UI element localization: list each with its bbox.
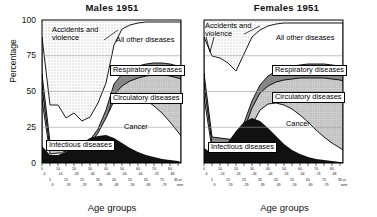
chart-panel-males: Males 1951 Percentage 100 75 50 25 0 [0, 0, 188, 217]
x-tick: 50 [282, 167, 286, 171]
x-tick: -34 [90, 172, 95, 176]
band-label-respiratory-males: Respiratory diseases [110, 65, 185, 76]
x-tick: -4 [205, 172, 208, 176]
x-tick: -4 [43, 172, 46, 176]
x-tick: -79 [162, 183, 167, 187]
x-tick: -64 [138, 172, 143, 176]
band-label-all-other-males: All other diseases [116, 36, 174, 45]
x-tick: 35 [258, 178, 262, 182]
x-tick: over [177, 183, 184, 187]
band-label-cancer-males: Cancer [124, 123, 148, 132]
x-tick: 20 [234, 167, 238, 171]
x-tick: 5 [211, 178, 213, 182]
x-tick: 0 [41, 167, 43, 171]
x-tick: 45 [112, 178, 116, 182]
x-tick: 75 [160, 178, 164, 182]
x-tick: 85 or [338, 178, 346, 182]
accidents-line-2: violence [52, 34, 98, 42]
figure-causes-of-death: Males 1951 Percentage 100 75 50 25 0 [0, 0, 377, 217]
x-tick: 55 [128, 178, 132, 182]
x-tick: 5 [49, 178, 51, 182]
x-tick: 70 [314, 167, 318, 171]
band-label-cancer-females: Cancer [286, 120, 310, 129]
x-tick: 50 [120, 167, 124, 171]
band-label-circulatory-males: Circulatory diseases [110, 93, 183, 104]
x-tick: 35 [96, 178, 100, 182]
x-tick: 15 [226, 178, 230, 182]
x-tick: -34 [252, 172, 257, 176]
accidents-line-2: violence [205, 30, 251, 38]
x-tick: 25 [242, 178, 246, 182]
x-tick: -24 [236, 172, 241, 176]
x-tick: -44 [106, 172, 111, 176]
x-tick: -64 [300, 172, 305, 176]
x-tick: -49 [114, 183, 119, 187]
x-axis-label-females: Age groups [188, 202, 377, 213]
x-tick: -74 [316, 172, 321, 176]
x-tick: -14 [220, 172, 225, 176]
x-tick: -14 [58, 172, 63, 176]
x-tick: 65 [306, 178, 310, 182]
x-tick: -44 [268, 172, 273, 176]
x-tick: 30 [88, 167, 92, 171]
band-label-accidents-males: Accidents and violence [52, 26, 98, 43]
x-tick: -9 [213, 183, 216, 187]
x-tick: over [341, 183, 348, 187]
x-tick: 85 or [174, 178, 182, 182]
x-tick: -84 [170, 172, 175, 176]
x-tick: 65 [144, 178, 148, 182]
x-tick: 80 [168, 167, 172, 171]
x-tick: 30 [250, 167, 254, 171]
x-tick: -19 [66, 183, 71, 187]
x-tick: -69 [308, 183, 313, 187]
band-label-infectious-males: Infectious diseases [46, 140, 115, 151]
x-tick: -79 [324, 183, 329, 187]
x-tick: 0 [203, 167, 205, 171]
x-tick: 40 [104, 167, 108, 171]
x-tick: 55 [290, 178, 294, 182]
band-label-circulatory-females: Circulatory diseases [272, 92, 345, 103]
x-tick: -54 [284, 172, 289, 176]
x-tick: -49 [276, 183, 281, 187]
x-tick: 75 [322, 178, 326, 182]
x-tick: -54 [122, 172, 127, 176]
x-tick: 60 [136, 167, 140, 171]
x-tick: 10 [218, 167, 222, 171]
x-tick: -74 [154, 172, 159, 176]
x-tick: 80 [330, 167, 334, 171]
x-tick: 45 [274, 178, 278, 182]
x-tick: -59 [292, 183, 297, 187]
x-tick: -19 [228, 183, 233, 187]
x-tick: -59 [130, 183, 135, 187]
x-tick: 40 [266, 167, 270, 171]
x-tick: -39 [98, 183, 103, 187]
x-tick: 20 [72, 167, 76, 171]
band-label-respiratory-females: Respiratory diseases [272, 65, 347, 76]
x-tick: 10 [56, 167, 60, 171]
x-tick: -9 [51, 183, 54, 187]
chart-panel-females: Females 1951 [188, 0, 377, 217]
x-tick: -69 [146, 183, 151, 187]
x-tick: 60 [298, 167, 302, 171]
x-tick: 25 [80, 178, 84, 182]
x-tick: 15 [64, 178, 68, 182]
band-label-infectious-females: Infectious diseases [208, 142, 277, 153]
x-tick: 70 [152, 167, 156, 171]
x-tick: -24 [74, 172, 79, 176]
band-label-all-other-females: All other diseases [276, 34, 334, 43]
x-tick: -84 [332, 172, 337, 176]
x-tick: -29 [244, 183, 249, 187]
x-tick: -39 [260, 183, 265, 187]
x-tick: -29 [82, 183, 87, 187]
band-label-accidents-females: Accidents and violence [205, 22, 251, 39]
x-axis-label-males: Age groups [0, 202, 206, 213]
